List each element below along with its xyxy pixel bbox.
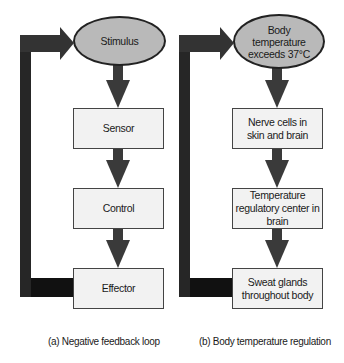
caption-a: (a) Negative feedback loop	[48, 336, 160, 347]
effector-box: Sweat glands throughout body	[232, 268, 323, 309]
control-label: Temperature regulatory center in brain	[235, 189, 320, 228]
control-box: Control	[73, 188, 164, 229]
sensor-box: Sensor	[73, 108, 164, 149]
panel-negative-feedback-loop: Stimulus Sensor Control Effector (a) Neg…	[0, 0, 172, 363]
control-box: Temperature regulatory center in brain	[232, 188, 323, 229]
sensor-label: Nerve cells in skin and brain	[241, 116, 314, 142]
sensor-label: Sensor	[103, 122, 134, 135]
sensor-box: Nerve cells in skin and brain	[232, 108, 323, 149]
stimulus-label: Stimulus	[101, 35, 139, 47]
flow-arrows	[265, 65, 289, 268]
flow-arrows	[106, 65, 130, 268]
effector-label: Effector	[102, 282, 136, 295]
stimulus-ellipse: Stimulus	[73, 16, 166, 66]
effector-box: Effector	[73, 268, 164, 309]
stimulus-ellipse: Body temperature exceeds 37°C	[233, 14, 325, 69]
stimulus-label: Body temperature exceeds 37°C	[245, 24, 313, 60]
control-label: Control	[103, 202, 135, 215]
caption-b: (b) Body temperature regulation	[199, 336, 331, 347]
effector-label: Sweat glands throughout body	[239, 276, 316, 302]
panel-body-temperature-regulation: Body temperature exceeds 37°C Nerve cell…	[172, 0, 344, 363]
